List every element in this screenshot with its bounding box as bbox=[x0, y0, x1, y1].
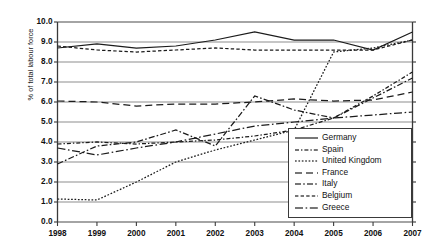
legend-line-swatch bbox=[294, 132, 320, 144]
series-line-germany bbox=[58, 32, 413, 50]
legend-line-swatch bbox=[294, 202, 320, 214]
x-tick-label: 1999 bbox=[77, 229, 117, 238]
legend-line-swatch bbox=[294, 190, 320, 202]
legend-item-label: Spain bbox=[320, 144, 343, 156]
legend-item-greece[interactable]: Greece bbox=[294, 202, 407, 214]
x-tick-label: 2006 bbox=[353, 229, 393, 238]
x-tick-label: 2007 bbox=[393, 229, 422, 238]
x-tick-label: 1998 bbox=[38, 229, 78, 238]
legend-item-belgium[interactable]: Belgium bbox=[294, 190, 407, 202]
legend-line-swatch bbox=[294, 155, 320, 167]
y-tick-label: 2.0 bbox=[19, 177, 53, 186]
legend-item-spain[interactable]: Spain bbox=[294, 144, 407, 156]
x-tick-label: 2002 bbox=[195, 229, 235, 238]
legend-item-label: Greece bbox=[320, 202, 349, 214]
legend-item-united-kingdom[interactable]: United Kingdom bbox=[294, 155, 407, 167]
x-tick-label: 2005 bbox=[314, 229, 354, 238]
y-tick-label: 0.0 bbox=[19, 217, 53, 226]
legend-item-label: France bbox=[320, 167, 348, 179]
x-tick-label: 2003 bbox=[235, 229, 275, 238]
legend: GermanySpainUnited KingdomFranceItalyBel… bbox=[288, 128, 412, 218]
legend-line-swatch bbox=[294, 167, 320, 179]
y-tick-label: 10.0 bbox=[19, 17, 53, 26]
y-tick-label: 8.0 bbox=[19, 57, 53, 66]
legend-item-label: Germany bbox=[320, 132, 356, 144]
y-tick-label: 1.0 bbox=[19, 197, 53, 206]
y-tick-label: 5.0 bbox=[19, 117, 53, 126]
legend-item-italy[interactable]: Italy bbox=[294, 178, 407, 190]
x-tick-label: 2004 bbox=[274, 229, 314, 238]
y-tick-label: 4.0 bbox=[19, 137, 53, 146]
legend-item-label: United Kingdom bbox=[320, 155, 382, 167]
legend-line-swatch bbox=[294, 144, 320, 156]
x-tick-label: 2001 bbox=[156, 229, 196, 238]
x-tick-label: 2000 bbox=[116, 229, 156, 238]
legend-item-label: Italy bbox=[320, 178, 337, 190]
legend-item-label: Belgium bbox=[320, 190, 352, 202]
y-tick-label: 6.0 bbox=[19, 97, 53, 106]
y-tick-label: 7.0 bbox=[19, 77, 53, 86]
legend-item-france[interactable]: France bbox=[294, 167, 407, 179]
y-tick-label: 9.0 bbox=[19, 37, 53, 46]
legend-item-germany[interactable]: Germany bbox=[294, 132, 407, 144]
legend-line-swatch bbox=[294, 178, 320, 190]
line-chart: % of total labour force 0.01.02.03.04.05… bbox=[0, 0, 422, 248]
y-tick-label: 3.0 bbox=[19, 157, 53, 166]
